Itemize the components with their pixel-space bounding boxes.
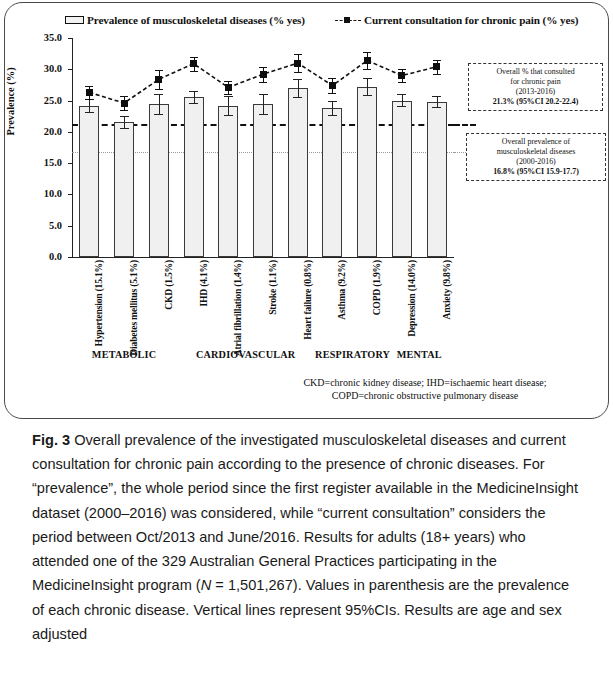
callout-consultation: Overall % that consulted for chronic pai…	[468, 63, 603, 111]
x-axis-tick-label: COPD (1.9%)	[371, 260, 382, 315]
marker-error-cap	[85, 86, 93, 87]
marker-error-cap	[433, 60, 441, 61]
marker-error-cap	[155, 70, 163, 71]
y-axis-tick-label: 15.0	[28, 157, 62, 168]
data-point-marker	[398, 72, 405, 79]
marker-error-cap	[190, 71, 198, 72]
data-point-marker	[329, 82, 336, 89]
abbreviation-line1: CKD=chronic kidney disease; IHD=ischaemi…	[250, 377, 600, 390]
caption-text: Overall prevalence of the investigated m…	[32, 432, 578, 593]
caption-n-italic: N	[201, 577, 212, 593]
marker-error-cap	[224, 81, 232, 82]
y-axis-tick-label: 30.0	[28, 63, 62, 74]
x-axis-tick-label: Heart failure (0.8%)	[302, 260, 313, 340]
x-axis-tick-label: Asthma (9.2%)	[336, 260, 347, 320]
marker-error-cap	[363, 52, 371, 53]
marker-error-cap	[190, 57, 198, 58]
data-point-marker	[364, 57, 371, 64]
abbreviation-line2: COPD=chronic obstructive pulmonary disea…	[250, 390, 600, 403]
marker-error-cap	[155, 89, 163, 90]
marker-error-cap	[398, 82, 406, 83]
line-series	[72, 38, 454, 257]
marker-error-cap	[433, 74, 441, 75]
data-point-marker	[260, 71, 267, 78]
marker-error-cap	[294, 54, 302, 55]
reference-line-extension	[454, 124, 476, 126]
x-axis-group-label: MENTAL	[385, 349, 454, 360]
marker-error-cap	[259, 67, 267, 68]
marker-error-cap	[328, 93, 336, 94]
callout-prevalence-line3: (2000-2016)	[471, 157, 601, 167]
marker-error-cap	[398, 69, 406, 70]
plot-area	[72, 38, 454, 257]
x-axis-tick-label: Diabetes mellitus (5.1%)	[128, 260, 139, 356]
callout-consultation-line2: for chronic pain	[473, 77, 598, 87]
data-point-marker	[121, 100, 128, 107]
x-axis-tick-label: CKD (1.5%)	[163, 260, 174, 310]
y-axis-tick-mark	[68, 257, 72, 258]
x-axis-line	[72, 257, 454, 258]
marker-error-cap	[224, 94, 232, 95]
x-axis-tick-label: Hypertension (15.1%)	[93, 260, 104, 347]
x-axis-group-label: RESPIRATORY	[315, 349, 384, 360]
y-axis-tick-label: 35.0	[28, 32, 62, 43]
x-axis-tick-label: Atrial fibrillation (1.4%)	[232, 260, 243, 356]
x-axis-tick-label: Depression (14.0%)	[406, 260, 417, 337]
callout-prevalence-value: 16.8% (95%CI 15.9-17.7)	[471, 167, 601, 177]
y-axis-tick-label: 10.0	[28, 188, 62, 199]
data-point-marker	[190, 60, 197, 67]
callout-consultation-line3: (2013-2016)	[473, 87, 598, 97]
marker-error-cap	[120, 96, 128, 97]
x-axis-tick-label: Stroke (1.1%)	[267, 260, 278, 315]
marker-error-cap	[363, 69, 371, 70]
callout-consultation-value: 21.3% (95%CI 20.2-22.4)	[473, 97, 598, 107]
y-axis-tick-label: 0.0	[28, 251, 62, 262]
marker-error-cap	[120, 110, 128, 111]
figure-caption: Fig. 3 Overall prevalence of the investi…	[32, 428, 584, 646]
callout-prevalence-line1: Overall prevalence of	[471, 137, 601, 147]
y-axis-tick-label: 25.0	[28, 95, 62, 106]
callout-consultation-line1: Overall % that consulted	[473, 67, 598, 77]
x-axis-group-label: METABOLIC	[72, 349, 176, 360]
x-axis-group-label: CARDIOVASCULAR	[176, 349, 315, 360]
figure-number: Fig. 3	[32, 432, 70, 448]
data-point-marker	[86, 89, 93, 96]
y-axis-tick-label: 5.0	[28, 220, 62, 231]
x-axis-tick-label: Anxiety (9.8%)	[441, 260, 452, 320]
marker-error-cap	[328, 78, 336, 79]
data-point-marker	[433, 63, 440, 70]
y-axis-tick-label: 20.0	[28, 126, 62, 137]
abbreviation-note: CKD=chronic kidney disease; IHD=ischaemi…	[250, 377, 600, 402]
y-axis-title: Prevalence (%)	[5, 67, 16, 135]
callout-prevalence-line2: musculoskeletal diseases	[471, 147, 601, 157]
data-point-marker	[294, 60, 301, 67]
marker-error-cap	[294, 72, 302, 73]
x-axis-tick-label: IHD (4.1%)	[198, 260, 209, 307]
data-point-marker	[155, 76, 162, 83]
data-point-marker	[225, 84, 232, 91]
callout-prevalence: Overall prevalence of musculoskeletal di…	[466, 133, 606, 181]
marker-error-cap	[85, 99, 93, 100]
marker-error-cap	[259, 82, 267, 83]
